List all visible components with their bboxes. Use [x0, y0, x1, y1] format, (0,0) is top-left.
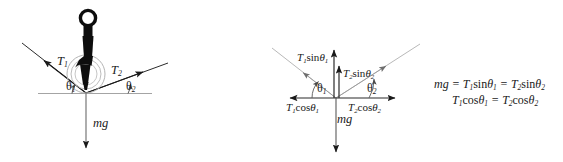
- label-tension-1-sub: 1: [64, 60, 68, 69]
- label-angle-theta1-left-sub: 1: [72, 85, 76, 94]
- label-tension-2-sub: 2: [118, 69, 122, 78]
- label-angle-theta1-right: θ1: [317, 82, 326, 95]
- label-t1-sin-theta1: T1sinθ1: [297, 52, 328, 64]
- label-t2-sin-theta2: T2sinθ2: [343, 68, 374, 80]
- right-panel-group: [272, 44, 420, 152]
- label-tension-1: T1: [57, 55, 68, 68]
- physics-force-diagram: T1 T2 θ1 θ2 mg T1sinθ1 T2sinθ2 T1cosθ1 T…: [0, 0, 563, 162]
- label-weight-left: mg: [93, 117, 108, 130]
- label-angle-theta2-left: θ2: [126, 80, 135, 93]
- equation-vertical-equilibrium: mg = T1sinθ1 = T2sinθ2: [434, 78, 545, 91]
- label-t2-cos-theta2: T2cosθ2: [348, 102, 381, 114]
- label-t1-cos-theta1: T1cosθ1: [286, 102, 319, 114]
- label-angle-theta2-right: θ2: [367, 82, 376, 95]
- label-weight-right: mg: [337, 113, 352, 126]
- hanging-object-icon: [75, 10, 96, 90]
- label-tension-2: T2: [111, 64, 122, 77]
- label-angle-theta1-left: θ1: [66, 80, 75, 93]
- equation-horizontal-equilibrium: T1cosθ1 = T2cosθ2: [452, 94, 538, 107]
- label-angle-theta2-left-sub: 2: [132, 85, 136, 94]
